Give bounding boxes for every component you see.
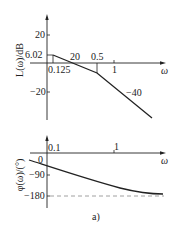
x-tick-label-0-5: 0.5 bbox=[91, 52, 104, 62]
phase-curve bbox=[29, 160, 163, 194]
bode-figure: L(ω)/dB 20 6.02 −20 0.125 0.5 1 20 −40 ω… bbox=[0, 0, 181, 237]
slope-label-20: 20 bbox=[70, 52, 80, 62]
phase-x-tick-1: 1 bbox=[114, 142, 119, 152]
y-tick-label-6-02: 6.02 bbox=[25, 50, 43, 60]
phase-y-axis-arrow-icon bbox=[45, 135, 48, 141]
phase-y-tick-minus90: −90 bbox=[29, 170, 45, 180]
figure-caption: a) bbox=[92, 212, 100, 222]
x-tick-label-1: 1 bbox=[112, 65, 117, 75]
bode-plot-svg bbox=[0, 0, 181, 237]
slope-label-minus40: −40 bbox=[126, 88, 142, 98]
magnitude-x-label: ω bbox=[161, 66, 168, 76]
x-tick-label-0-125: 0.125 bbox=[48, 65, 71, 75]
magnitude-y-label: L(ω)/dB bbox=[15, 38, 25, 82]
magnitude-y-axis-arrow-icon bbox=[45, 14, 48, 20]
phase-y-tick-minus180: −180 bbox=[24, 191, 45, 201]
y-tick-label-minus20: −20 bbox=[30, 87, 46, 97]
phase-x-tick-0-1: 0.1 bbox=[48, 143, 61, 153]
phase-y-tick-0: 0 bbox=[38, 155, 43, 165]
phase-x-label: ω bbox=[161, 156, 168, 166]
y-tick-label-20: 20 bbox=[35, 30, 45, 40]
